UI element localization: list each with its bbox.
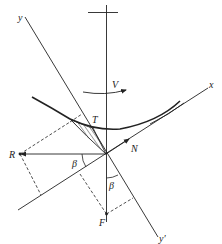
force-F-label: F	[98, 217, 106, 228]
x-axis-label: x	[208, 79, 214, 90]
angle-beta-left-label: β	[71, 158, 77, 169]
angle-beta-lower-label: β	[108, 180, 114, 191]
angle-arc-left	[82, 154, 86, 167]
normal-arrow	[106, 139, 129, 154]
resultant-force-label: R	[8, 149, 15, 160]
normal-force-label: N	[130, 143, 139, 154]
force-diagram: y x V T N R F y′ β β	[0, 0, 222, 244]
tangential-force-label: T	[92, 114, 99, 125]
hatched-chip	[70, 119, 106, 154]
y-axis-label: y	[17, 12, 23, 23]
rotation-arrow	[83, 90, 126, 94]
workpiece-curve	[32, 97, 180, 129]
velocity-label: V	[112, 79, 120, 90]
y-prime-axis-label: y′	[158, 233, 166, 244]
surface-curve-right	[150, 103, 184, 124]
angle-arc-lower	[107, 175, 119, 178]
